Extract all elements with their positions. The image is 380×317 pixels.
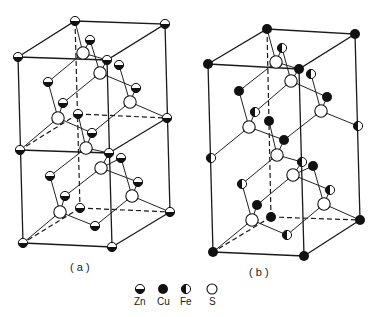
s-atom — [52, 112, 64, 124]
caption-b: ( b ) — [249, 266, 269, 278]
hidden-edge — [20, 114, 78, 150]
zn-atom — [104, 148, 113, 157]
legend-item-fe: Fe — [180, 284, 192, 307]
zn-atom — [165, 207, 174, 216]
zn-atom — [116, 153, 125, 162]
legend-label-cu: Cu — [157, 296, 170, 307]
zn-atom — [18, 238, 27, 247]
s-atom — [54, 206, 66, 218]
hidden-edge — [78, 114, 167, 118]
cu-atom — [234, 86, 244, 96]
cu-atom — [203, 59, 213, 69]
s-atom — [246, 214, 258, 226]
zn-atom — [160, 19, 169, 28]
hidden-edge — [23, 208, 80, 243]
s-atom — [77, 47, 89, 59]
s-atom — [287, 169, 299, 181]
s-atom — [243, 121, 255, 133]
zn-atom — [133, 177, 142, 186]
zn-atom — [114, 60, 123, 69]
legend-label-zn: Zn — [134, 296, 146, 307]
fe-atom — [282, 230, 291, 239]
caption-a: ( a ) — [70, 261, 90, 273]
fe-atom — [297, 157, 306, 166]
zn-atom — [162, 113, 171, 122]
zn-atom — [87, 128, 96, 137]
atoms-b — [203, 24, 365, 261]
legend-label-s: S — [209, 296, 216, 307]
zn-atom — [75, 203, 84, 212]
zn-atom — [60, 191, 69, 200]
hidden-edge — [80, 208, 170, 212]
cu-atom — [208, 247, 218, 257]
zn-atom — [102, 55, 111, 64]
fe-atom — [306, 69, 315, 78]
cu-atom — [322, 92, 332, 102]
s-atom — [271, 149, 283, 161]
zn-atom — [58, 98, 67, 107]
cu-symbol-icon — [158, 284, 168, 294]
cu-atom — [294, 64, 304, 74]
s-atom — [124, 96, 136, 108]
legend: Zn Cu Fe S — [134, 284, 217, 307]
zn-atom — [85, 35, 94, 44]
s-atom — [126, 190, 138, 202]
cu-atom — [299, 251, 309, 261]
s-atom — [285, 75, 297, 87]
zn-atom — [70, 16, 79, 25]
fe-symbol-icon — [181, 284, 190, 293]
fe-atom — [325, 185, 334, 194]
fe-atom — [353, 121, 362, 130]
panel-b: ( b ) — [203, 24, 365, 278]
s-atom — [80, 142, 92, 154]
cu-atom — [252, 200, 262, 210]
s-symbol-icon — [207, 284, 217, 294]
fe-atom — [206, 153, 215, 162]
crystal-structure-figure: ( a ) — [0, 0, 380, 317]
zn-atom — [107, 242, 116, 251]
cu-atom — [279, 135, 289, 145]
zn-atom — [45, 171, 54, 180]
fe-atom — [237, 179, 246, 188]
cu-atom — [308, 161, 318, 171]
legend-item-zn: Zn — [134, 284, 146, 307]
s-atom — [315, 105, 327, 117]
zn-atom — [43, 77, 52, 86]
hidden-edge — [213, 217, 271, 252]
s-atom — [94, 67, 106, 79]
legend-item-cu: Cu — [157, 284, 170, 307]
zn-symbol-icon — [135, 284, 144, 293]
cu-atom — [262, 24, 272, 34]
cu-atom — [266, 212, 276, 222]
zn-atom — [73, 109, 82, 118]
zn-atom — [15, 145, 24, 154]
fe-atom — [250, 107, 259, 116]
s-atom — [95, 162, 107, 174]
panel-a: ( a ) — [13, 16, 174, 273]
zn-atom — [131, 83, 140, 92]
legend-label-fe: Fe — [180, 296, 192, 307]
zn-atom — [13, 52, 22, 61]
legend-item-s: S — [207, 284, 217, 307]
cu-atom — [355, 215, 365, 225]
zn-atom — [90, 221, 99, 230]
cu-atom — [264, 116, 274, 126]
s-atom — [270, 56, 282, 68]
hidden-edge — [271, 217, 360, 220]
s-atom — [318, 198, 330, 210]
cu-atom — [350, 29, 360, 39]
fe-atom — [277, 43, 286, 52]
